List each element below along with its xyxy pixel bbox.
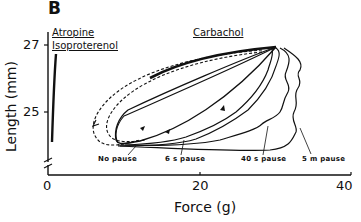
annotation-40s-pause: 40 s pause xyxy=(241,155,286,163)
figure-panel: B Atropine Isoproterenol Carbachol xyxy=(0,0,361,222)
chart-plot xyxy=(0,0,361,222)
x-tick-label-40: 40 xyxy=(336,178,353,193)
trace-dashed-outer xyxy=(93,50,262,145)
y-axis-label: Length (mm) xyxy=(3,61,19,152)
trace-5m-pause xyxy=(118,48,301,151)
trace-40s-pause xyxy=(118,48,289,145)
y-tick-label-27: 27 xyxy=(23,37,40,52)
y-tick-label-25: 25 xyxy=(23,104,40,119)
annotation-no-pause: No pause xyxy=(98,155,137,163)
annotation-6s-pause: 6 s pause xyxy=(165,155,205,163)
x-tick-label-0: 0 xyxy=(43,178,51,193)
trace-relaxed xyxy=(52,54,56,142)
trace-dashed-inner xyxy=(107,52,262,142)
x-axis-label: Force (g) xyxy=(174,199,236,215)
annotation-5m-pause: 5 m pause xyxy=(302,155,345,163)
x-tick-label-20: 20 xyxy=(192,178,209,193)
